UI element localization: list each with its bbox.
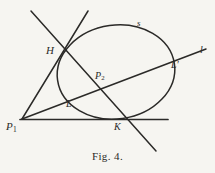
label-line-l: l — [200, 45, 203, 55]
figure-caption: Fig. 4. — [0, 150, 215, 162]
conic-s-ellipse — [51, 17, 181, 127]
label-point-k: K — [114, 122, 121, 132]
line-p1-through-h — [22, 11, 88, 119]
figure-4: P1 P2 H K L L′ l s Fig. 4. — [0, 0, 215, 173]
label-point-l: L — [66, 99, 72, 109]
label-point-l-prime: L′ — [171, 60, 179, 70]
label-point-p2: P2 — [95, 71, 105, 81]
label-conic-s: s — [137, 19, 141, 28]
figure-drawing — [0, 0, 215, 173]
label-point-p1: P1 — [6, 121, 16, 132]
label-point-h: H — [46, 45, 54, 56]
line-through-h-and-k — [31, 11, 156, 151]
